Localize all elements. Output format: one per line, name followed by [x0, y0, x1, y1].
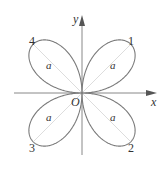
- x-axis-label: x: [151, 96, 156, 108]
- lobe-3-param-label: a: [46, 112, 52, 123]
- lobe-2-label: 2: [128, 142, 134, 154]
- lobe-4-param-label: a: [46, 60, 52, 71]
- y-axis-arrow-icon: [79, 15, 85, 26]
- diagram-canvas: [0, 0, 167, 174]
- lobe-1-param-label: a: [110, 60, 116, 71]
- lobe-2-param-label: a: [110, 112, 116, 123]
- lobe-3-label: 3: [29, 142, 35, 154]
- y-axis-label: y: [73, 13, 78, 25]
- lobe-4-label: 4: [29, 35, 35, 47]
- rose-curve-diagram: y x O 1 2 3 4 a a a a: [0, 0, 167, 174]
- lobe-1-label: 1: [128, 35, 134, 47]
- origin-label: O: [71, 96, 80, 108]
